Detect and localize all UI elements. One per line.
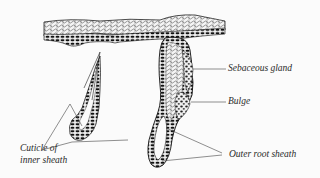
leader-lines xyxy=(42,69,226,161)
label-sebaceous-gland: Sebaceous gland xyxy=(228,63,292,74)
hair-section-detail xyxy=(69,52,100,140)
diagram-canvas: Sebaceous gland Bulge Outer root sheath … xyxy=(0,0,320,178)
label-cuticle-line1: Cuticle of xyxy=(20,143,57,154)
epidermis-layer xyxy=(44,15,225,46)
label-bulge: Bulge xyxy=(228,96,250,107)
hair-follicle xyxy=(148,37,193,167)
leader-outer-root-sheath-lower xyxy=(162,155,222,161)
leader-outer-root-sheath-upper xyxy=(166,128,222,153)
label-cuticle-line2: inner sheath xyxy=(20,155,67,166)
label-outer-root-sheath: Outer root sheath xyxy=(229,149,296,160)
